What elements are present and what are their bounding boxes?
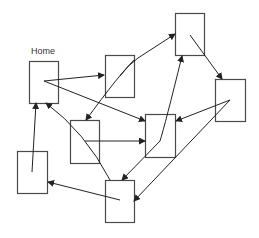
page-node-home xyxy=(30,62,59,104)
arrow-g-to-home xyxy=(32,103,36,172)
page-node-b xyxy=(106,56,135,98)
arrow-b-to-f xyxy=(86,60,134,120)
arrow-home-to-b xyxy=(44,75,104,81)
nodes-layer xyxy=(18,14,246,223)
arrow-d-to-h xyxy=(134,100,230,201)
arrow-e-to-h xyxy=(122,141,160,180)
arrow-home-to-e xyxy=(44,81,145,121)
page-node-f xyxy=(71,121,100,164)
arrow-c-to-d xyxy=(190,35,222,79)
site-map-diagram xyxy=(0,0,259,238)
page-node-d xyxy=(216,80,246,122)
arrow-e-to-c xyxy=(160,56,182,141)
arrow-h-to-g xyxy=(48,182,120,200)
node-label-home: Home xyxy=(31,46,55,56)
arrow-d-to-e xyxy=(176,100,230,121)
edges-layer xyxy=(32,34,230,201)
page-node-h xyxy=(106,181,135,223)
